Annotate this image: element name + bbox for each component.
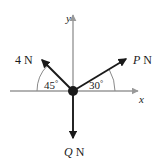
force-q-unit: N: [76, 145, 85, 159]
force-4n-unit: N: [24, 53, 33, 67]
force-label-q: Q N: [64, 146, 84, 158]
origin-dot: [68, 86, 78, 96]
force-label-4n: 4 N: [15, 54, 33, 66]
force-4n-magnitude: 4: [15, 53, 21, 67]
angle-arc-30: [109, 70, 115, 91]
angle-label-45: 45°: [44, 80, 58, 91]
force-diagram-figure: y x 4 N P N Q N 45° 30°: [0, 0, 160, 168]
angle-label-30: 30°: [89, 80, 103, 91]
degree-symbol-icon: °: [55, 79, 58, 88]
angle-45-value: 45: [44, 79, 55, 91]
force-q-magnitude: Q: [64, 145, 73, 159]
force-p-magnitude: P: [133, 53, 140, 67]
angle-30-value: 30: [89, 79, 100, 91]
degree-symbol-icon: °: [100, 79, 103, 88]
y-axis-label: y: [66, 13, 71, 24]
x-axis-label: x: [139, 94, 144, 105]
force-p-unit: N: [143, 53, 152, 67]
force-label-p: P N: [133, 54, 152, 66]
diagram-canvas: [0, 0, 160, 168]
